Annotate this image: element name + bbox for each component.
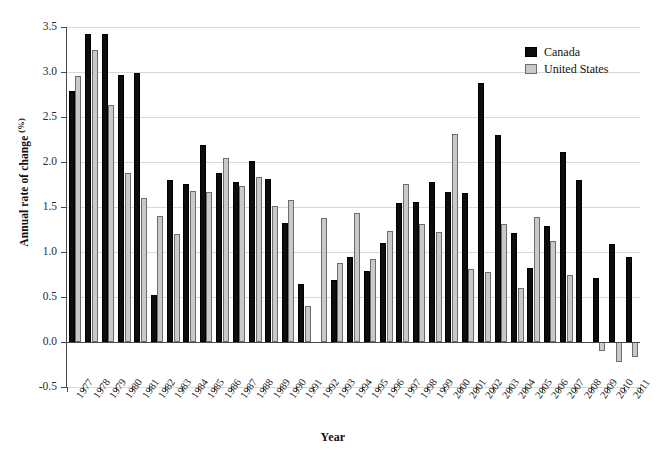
bar-canada-2009: [593, 278, 599, 342]
bar-united-states-1989: [272, 206, 278, 342]
legend-label-united-states: United States: [544, 63, 608, 75]
bar-united-states-1978: [92, 50, 98, 343]
bar-canada-2000: [445, 192, 451, 342]
bar-united-states-2003: [501, 224, 507, 342]
bar-canada-1982: [151, 295, 157, 342]
bar-canada-2006: [544, 226, 550, 342]
bar-united-states-2004: [518, 288, 524, 342]
y-tick-label: 2.5: [23, 111, 57, 122]
bar-united-states-1995: [370, 259, 376, 342]
bar-united-states-1985: [206, 192, 212, 342]
bar-canada-2004: [511, 233, 517, 342]
y-tick-label: -0.5: [23, 381, 57, 392]
y-tick-label: 1.0: [23, 246, 57, 257]
bar-united-states-2006: [550, 241, 556, 342]
bar-united-states-1990: [288, 200, 294, 342]
bar-canada-1993: [331, 280, 337, 342]
y-tick-label: 3.5: [23, 21, 57, 32]
bar-canada-2002: [478, 83, 484, 342]
bar-canada-1991: [298, 284, 304, 342]
bar-united-states-2010: [616, 342, 622, 362]
bar-canada-1994: [347, 257, 353, 342]
bar-canada-2008: [576, 180, 582, 342]
legend-label-canada: Canada: [544, 46, 580, 58]
bar-united-states-2002: [485, 272, 491, 342]
gridline-2: [67, 162, 640, 163]
bar-canada-1977: [69, 91, 75, 342]
bar-canada-1988: [249, 161, 255, 342]
bar-united-states-2007: [567, 275, 573, 343]
bar-united-states-1999: [436, 232, 442, 342]
y-axis-tick-labels: -0.50.00.51.01.52.02.53.03.5: [15, 0, 57, 461]
bar-united-states-1992: [321, 218, 327, 342]
bar-united-states-1986: [223, 158, 229, 342]
bar-united-states-1988: [256, 177, 262, 342]
bar-canada-1998: [413, 202, 419, 342]
chart-figure: Annual rate of change (%) -0.50.00.51.01…: [0, 0, 666, 461]
gridline-2neg5: [67, 117, 640, 118]
bar-canada-1997: [396, 203, 402, 342]
y-tick-label: 3.0: [23, 66, 57, 77]
bar-canada-2005: [527, 268, 533, 342]
y-tick-label: 2.0: [23, 156, 57, 167]
bar-united-states-2005: [534, 217, 540, 342]
bar-united-states-1997: [403, 184, 409, 342]
bar-united-states-1982: [157, 216, 163, 342]
bar-united-states-2000: [452, 134, 458, 342]
bar-canada-2011: [626, 257, 632, 343]
bar-united-states-1984: [190, 191, 196, 342]
bar-united-states-1998: [419, 224, 425, 342]
bar-canada-1983: [167, 180, 173, 342]
bar-united-states-1991: [305, 306, 311, 342]
bar-canada-2003: [495, 135, 501, 342]
plot-area: [67, 27, 640, 387]
bar-united-states-1987: [239, 186, 245, 342]
x-tick: [67, 387, 68, 392]
bar-united-states-1994: [354, 213, 360, 342]
y-tick-label: 1.5: [23, 201, 57, 212]
bar-canada-2007: [560, 152, 566, 342]
bar-united-states-2011: [632, 342, 638, 357]
bar-united-states-1980: [125, 173, 131, 342]
x-axis-line: [67, 342, 640, 343]
bar-united-states-1977: [75, 76, 81, 342]
bar-united-states-1996: [387, 231, 393, 342]
bar-canada-1980: [118, 75, 124, 342]
bar-united-states-2009: [599, 342, 605, 351]
canada-swatch-icon: [525, 47, 537, 57]
bar-united-states-1981: [141, 198, 147, 342]
bar-canada-1995: [364, 271, 370, 342]
united-states-swatch-icon: [525, 64, 537, 74]
bar-canada-1999: [429, 182, 435, 342]
bar-canada-1996: [380, 243, 386, 342]
bar-canada-2001: [462, 193, 468, 342]
y-tick-label: 0.5: [23, 291, 57, 302]
bar-canada-1978: [85, 34, 91, 342]
x-axis-title: Year: [0, 430, 666, 445]
bar-united-states-1983: [174, 234, 180, 342]
bar-canada-1986: [216, 173, 222, 342]
bar-canada-1987: [233, 182, 239, 342]
y-tick-label: 0.0: [23, 336, 57, 347]
bar-united-states-1993: [337, 263, 343, 342]
bar-canada-1979: [102, 34, 108, 342]
bar-canada-1981: [134, 73, 140, 342]
gridline-1neg5: [67, 207, 640, 208]
bar-united-states-2001: [468, 269, 474, 342]
gridline-3neg5: [67, 27, 640, 28]
bar-canada-1985: [200, 145, 206, 342]
bar-canada-1990: [282, 223, 288, 342]
legend: Canada United States: [525, 46, 608, 80]
bar-canada-2010: [609, 244, 615, 342]
legend-item-united-states[interactable]: United States: [525, 63, 608, 75]
bar-united-states-1979: [108, 105, 114, 342]
bar-canada-1984: [183, 184, 189, 342]
bar-canada-1989: [265, 179, 271, 342]
legend-item-canada[interactable]: Canada: [525, 46, 608, 58]
